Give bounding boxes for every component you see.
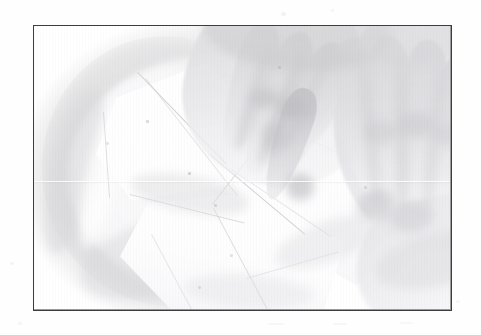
- finger-gap-shadow: [281, 47, 338, 149]
- finger-gap-shadow: [421, 58, 445, 208]
- photo-speck: [364, 186, 367, 189]
- knuckle-shadow: [262, 122, 288, 152]
- photo-speck: [214, 204, 217, 207]
- left-hand-thumb: [255, 84, 323, 205]
- photo-speck: [278, 66, 281, 69]
- dough-sheet-upper-left: [96, 62, 296, 272]
- dough-sheet-right: [214, 124, 429, 294]
- photo-speck: [230, 254, 233, 257]
- finger-gap-shadow: [356, 56, 383, 206]
- fingertip-shadow: [388, 198, 437, 235]
- dough-sheet-bottom: [120, 194, 350, 310]
- photo-speck: [146, 120, 149, 123]
- dough-edge: [292, 130, 361, 164]
- fingertip-shadow: [286, 174, 314, 200]
- right-hand-finger: [423, 50, 451, 212]
- photo-speck: [106, 142, 109, 145]
- bowl-rim-shading: [34, 26, 310, 310]
- page-canvas: [0, 0, 481, 335]
- scan-seam-line: [34, 181, 451, 182]
- dough-shadow: [268, 204, 385, 279]
- photo-speck: [188, 172, 191, 175]
- knuckle-shadow: [398, 112, 434, 138]
- right-hand: [326, 26, 451, 259]
- dough-edge: [137, 72, 227, 165]
- scan-speck: [281, 12, 286, 16]
- right-hand-wrist: [344, 176, 451, 310]
- dough-edge: [103, 112, 110, 198]
- scan-speck: [268, 323, 284, 325]
- knuckle-shadow: [278, 96, 310, 118]
- left-hand-finger: [234, 26, 323, 180]
- scan-speck: [333, 323, 347, 325]
- dough-edge: [145, 78, 238, 197]
- knuckle-shadow: [364, 120, 398, 144]
- dough-edge: [229, 168, 331, 237]
- dough-edge: [130, 194, 245, 224]
- right-hand-finger: [330, 42, 394, 197]
- photograph: [34, 26, 451, 310]
- photo-speck: [198, 286, 201, 289]
- bowl-outer-rim: [34, 26, 398, 310]
- top-vignette: [34, 26, 451, 116]
- finger-gap-shadow: [232, 43, 276, 152]
- left-hand-finger: [283, 31, 374, 159]
- finger-gap-shadow: [395, 52, 409, 212]
- dough-edge: [246, 252, 339, 279]
- right-hand-finger: [364, 35, 422, 216]
- finger-gap-shadow: [255, 50, 309, 166]
- upper-hand-mass-shadow: [199, 26, 394, 77]
- dough-edge: [151, 234, 196, 310]
- scan-speck: [331, 9, 334, 12]
- dough-edge: [213, 208, 269, 310]
- knuckle-shadow: [432, 122, 451, 146]
- left-hand: [169, 26, 389, 201]
- scan-speck: [400, 322, 412, 324]
- dough-shadow: [128, 166, 252, 222]
- bowl-inner-floor: [68, 54, 368, 298]
- scan-speck: [10, 262, 14, 265]
- scan-speck: [18, 322, 22, 325]
- upper-hand-mass-shadow: [332, 26, 451, 71]
- scan-speck: [456, 300, 460, 303]
- bowl-rim-shadow: [71, 201, 236, 310]
- fingertip-shadow: [353, 186, 399, 225]
- high-key-wash: [34, 26, 451, 310]
- left-hand-finger: [254, 35, 355, 196]
- bowl-rim-shadow: [34, 83, 118, 259]
- dough-edge: [212, 155, 251, 204]
- right-hand-finger: [399, 39, 451, 216]
- wrist-shadow: [369, 217, 451, 301]
- dough-edge: [209, 154, 305, 234]
- bowl-rim-highlight: [71, 99, 132, 252]
- left-hand-finger: [213, 26, 288, 155]
- knuckle-shadow: [250, 88, 280, 108]
- scan-stripe-artifact: [34, 26, 451, 310]
- dough-shadow: [183, 270, 315, 310]
- photo-frame: [33, 25, 452, 311]
- dough-sheet-diagonal: [142, 74, 382, 289]
